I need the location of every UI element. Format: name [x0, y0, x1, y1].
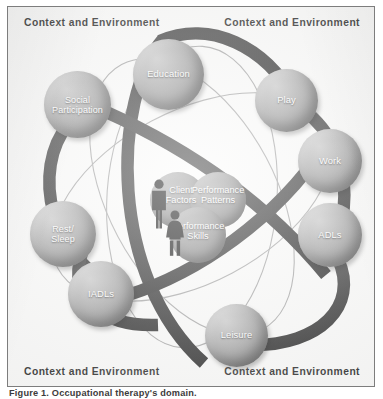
sphere-social-participation[interactable]: Social Participation — [44, 71, 111, 138]
corner-label-bottom-left: Context and Environment — [24, 366, 160, 377]
sphere-label-rest-sleep-line2: Sleep — [51, 234, 75, 244]
diagram-frame: Context and Environment Context and Envi… — [7, 6, 375, 387]
sphere-play[interactable]: Play — [255, 69, 318, 132]
sphere-work[interactable]: Work — [298, 129, 362, 193]
sphere-label-adls: ADLs — [316, 230, 343, 241]
sphere-label-rest-sleep-line1: Rest/ — [52, 224, 74, 234]
sphere-rest-sleep[interactable]: Rest/ Sleep — [30, 201, 96, 267]
figure-container: Context and Environment Context and Envi… — [0, 0, 383, 399]
sphere-iadls[interactable]: IADLs — [68, 261, 134, 327]
sphere-leisure[interactable]: Leisure — [205, 304, 268, 367]
corner-label-top-left: Context and Environment — [24, 17, 160, 28]
figure-caption: Figure 1. Occupational therapy's domain. — [9, 389, 197, 399]
core-label-performance-patterns: Performance Patterns — [185, 185, 251, 205]
sphere-label-social-participation-line2: Participation — [52, 105, 103, 115]
sphere-label-work: Work — [317, 156, 343, 167]
sphere-label-social-participation: Social Participation — [50, 95, 105, 115]
person-female-icon — [164, 210, 186, 256]
core-label-performance-patterns-line1: Performance — [192, 185, 245, 195]
sphere-education[interactable]: Education — [133, 39, 204, 110]
sphere-label-leisure: Leisure — [219, 330, 254, 341]
core-label-performance-skills-line2: Skills — [187, 231, 208, 241]
sphere-label-iadls: IADLs — [86, 289, 116, 300]
sphere-label-social-participation-line1: Social — [65, 95, 90, 105]
sphere-label-rest-sleep: Rest/ Sleep — [49, 224, 77, 244]
corner-label-bottom-right: Context and Environment — [224, 366, 360, 377]
corner-label-top-right: Context and Environment — [224, 17, 360, 28]
sphere-label-play: Play — [275, 95, 298, 106]
core-label-performance-patterns-line2: Patterns — [201, 195, 235, 205]
sphere-adls[interactable]: ADLs — [298, 203, 362, 267]
figure-caption-text: Figure 1. Occupational therapy's domain. — [9, 389, 197, 398]
sphere-label-education: Education — [145, 69, 192, 80]
